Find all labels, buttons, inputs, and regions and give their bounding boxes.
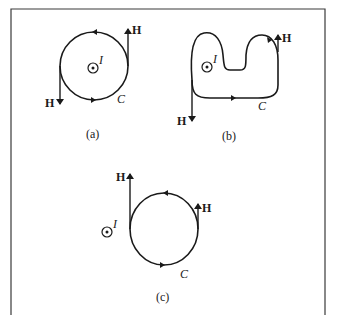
contour-label: C	[258, 99, 267, 113]
contour-direction-arrow-icon	[91, 97, 96, 103]
current-label: I	[112, 217, 118, 231]
contour-label: C	[180, 267, 189, 281]
panel-c: H H I C (c)	[102, 170, 212, 304]
current-dot-icon	[92, 67, 95, 70]
field-label-h: H	[45, 96, 55, 110]
field-label-h: H	[177, 114, 187, 128]
panel-caption: (c)	[156, 290, 169, 304]
contour-direction-arrow-icon	[163, 190, 168, 196]
contour-label: C	[117, 92, 126, 106]
field-label-h: H	[132, 23, 142, 37]
contour-circle	[60, 32, 128, 100]
panel-b: H H I C (b)	[177, 31, 292, 143]
ampere-law-figure: H H I C (a) H H I C (b) H H	[0, 0, 338, 315]
current-dot-icon	[206, 66, 209, 69]
field-label-h: H	[202, 201, 212, 215]
current-label: I	[98, 53, 104, 67]
field-label-h: H	[116, 170, 126, 184]
contour-direction-arrow-icon	[231, 95, 236, 101]
current-label: I	[212, 52, 218, 66]
contour-direction-arrow-icon	[92, 29, 97, 35]
panel-caption: (b)	[222, 129, 236, 143]
field-label-h: H	[282, 31, 292, 45]
contour-irregular	[191, 33, 278, 98]
panel-a: H H I C (a)	[45, 23, 142, 141]
contour-direction-arrow-icon	[160, 262, 165, 268]
contour-circle	[130, 193, 198, 265]
current-dot-icon	[106, 231, 109, 234]
panel-caption: (a)	[86, 127, 99, 141]
